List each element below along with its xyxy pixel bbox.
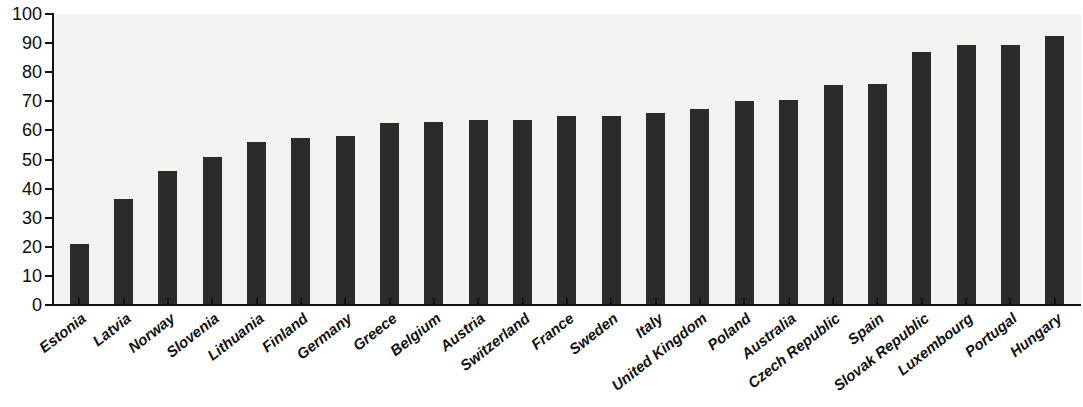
y-axis-tick-label: 40 [0,180,42,198]
bar[interactable] [957,45,976,305]
y-axis-tick [45,304,53,306]
x-axis-tick [123,298,125,306]
y-axis-tick [45,129,53,131]
x-axis-tick [167,298,169,306]
x-tick-slot [323,297,367,306]
x-axis-tick [610,298,612,306]
x-axis-tick [566,298,568,306]
x-tick-slot [900,297,944,306]
x-axis-category-label: Estonia [36,310,88,355]
x-tick-slot [279,297,323,306]
x-axis-tick [876,298,878,306]
bar[interactable] [247,142,266,305]
y-axis-tick-label: 50 [0,151,42,169]
bar-slot [190,14,234,305]
x-tick-slot [146,297,190,306]
x-tick-slot [367,297,411,306]
bar[interactable] [291,138,310,305]
x-axis-tick [1054,298,1056,306]
bar-slot [323,14,367,305]
x-label-slot: Norway [146,306,190,407]
bar[interactable] [735,101,754,305]
x-axis-tick [699,298,701,306]
bar-slot [545,14,589,305]
bar-slot [456,14,500,305]
y-axis-tick-label: 80 [0,63,42,81]
x-axis-labels: EstoniaLatviaNorwaySloveniaLithuaniaFinl… [53,306,1081,407]
y-axis-tick-label: 70 [0,92,42,110]
x-tick-slot [944,297,988,306]
x-axis-tick [965,298,967,306]
x-tick-slot [57,297,101,306]
x-label-slot: Estonia [57,306,101,407]
bar[interactable] [513,120,532,305]
y-axis-tick-label: 0 [0,296,42,314]
bar[interactable] [380,123,399,305]
plot-area [53,14,1081,305]
y-axis-tick-label: 10 [0,267,42,285]
x-label-slot: Belgium [412,306,456,407]
x-tick-slot [811,297,855,306]
bar[interactable] [114,199,133,305]
x-axis-tick [433,298,435,306]
bar[interactable] [646,113,665,305]
bar-slot [988,14,1032,305]
x-label-slot: Latvia [101,306,145,407]
bar[interactable] [158,171,177,305]
x-tick-slot [855,297,899,306]
bar-slot [767,14,811,305]
x-tick-slot [589,297,633,306]
x-axis-tick [256,298,258,306]
x-tick-slot [988,297,1032,306]
x-tick-slot [500,297,544,306]
x-label-slot: Luxembourg [944,306,988,407]
bar[interactable] [1045,36,1064,305]
x-axis-tick [522,298,524,306]
bar-slot [367,14,411,305]
bar[interactable] [602,116,621,305]
y-axis-tick [45,71,53,73]
bar[interactable] [203,157,222,305]
y-axis-tick [45,275,53,277]
bar-slot [279,14,323,305]
y-axis-tick-label: 100 [0,5,42,23]
bar[interactable] [1001,45,1020,305]
y-axis-tick [45,100,53,102]
y-axis-tick [45,159,53,161]
bar-slot [57,14,101,305]
bar-slot [811,14,855,305]
bar[interactable] [557,116,576,305]
bar[interactable] [70,244,89,305]
y-axis-tick-label: 60 [0,121,42,139]
x-tick-slot [767,297,811,306]
x-tick-slot [101,297,145,306]
bar-slot [855,14,899,305]
x-tick-slot [412,297,456,306]
x-axis-tick [788,298,790,306]
x-label-slot: Portugal [988,306,1032,407]
bar[interactable] [424,122,443,305]
y-axis-tick [45,13,53,15]
bar[interactable] [824,85,843,305]
x-axis-tick [1009,298,1011,306]
bar-slot [101,14,145,305]
x-label-slot: Switzerland [500,306,544,407]
bar-slot [500,14,544,305]
y-axis-tick-label: 20 [0,238,42,256]
bar-slot [633,14,677,305]
bar-slot [234,14,278,305]
bar[interactable] [336,136,355,305]
bar[interactable] [690,109,709,305]
y-axis-tick [45,42,53,44]
x-tick-slot [190,297,234,306]
bar[interactable] [469,120,488,305]
bar[interactable] [912,52,931,305]
x-axis-ticks [53,297,1081,306]
bar-slot [944,14,988,305]
x-label-slot: Germany [323,306,367,407]
bar[interactable] [779,100,798,305]
bar[interactable] [868,84,887,305]
x-label-slot: Czech Republic [811,306,855,407]
x-axis-tick [743,298,745,306]
x-tick-slot [678,297,722,306]
